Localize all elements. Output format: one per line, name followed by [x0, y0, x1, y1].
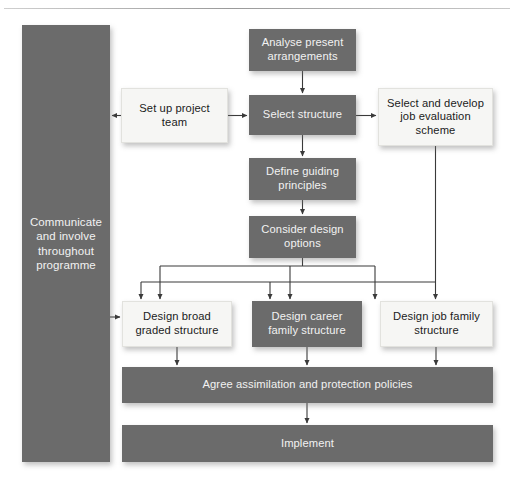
node-communicate-label: Communicate and involve throughout progr… [26, 215, 106, 271]
node-design-broad-graded-structure[interactable]: Design broad graded structure [122, 301, 232, 347]
node-set-up-project-team[interactable]: Set up project team [121, 88, 228, 143]
node-job-evaluation-label: Select and develop job evaluation scheme [383, 97, 488, 138]
node-select-structure-label: Select structure [259, 108, 346, 122]
node-design-job-family-label: Design job family structure [389, 310, 484, 337]
node-design-broad-label: Design broad graded structure [131, 310, 222, 337]
node-consider-options-label: Consider design options [257, 223, 347, 250]
node-define-principles-label: Define guiding principles [262, 165, 343, 192]
node-agree-assimilation-and-protection-policies[interactable]: Agree assimilation and protection polici… [122, 367, 493, 403]
node-analyse-present-arrangements[interactable]: Analyse present arrangements [249, 29, 356, 71]
node-communicate[interactable]: Communicate and involve throughout progr… [22, 25, 110, 462]
node-define-guiding-principles[interactable]: Define guiding principles [249, 158, 356, 200]
node-design-career-label: Design career family structure [264, 310, 349, 337]
node-select-structure[interactable]: Select structure [249, 95, 356, 135]
node-design-career-family-structure[interactable]: Design career family structure [252, 301, 362, 347]
node-implement[interactable]: Implement [122, 425, 493, 462]
node-implement-label: Implement [277, 437, 338, 451]
diagram-canvas: Communicate and involve throughout progr… [0, 0, 514, 488]
node-select-and-develop-job-evaluation-scheme[interactable]: Select and develop job evaluation scheme [378, 88, 493, 146]
node-analyse-label: Analyse present arrangements [258, 36, 348, 63]
node-consider-design-options[interactable]: Consider design options [249, 216, 356, 258]
node-set-up-team-label: Set up project team [135, 102, 213, 129]
node-design-job-family-structure[interactable]: Design job family structure [380, 301, 493, 347]
node-agree-policies-label: Agree assimilation and protection polici… [198, 378, 416, 392]
